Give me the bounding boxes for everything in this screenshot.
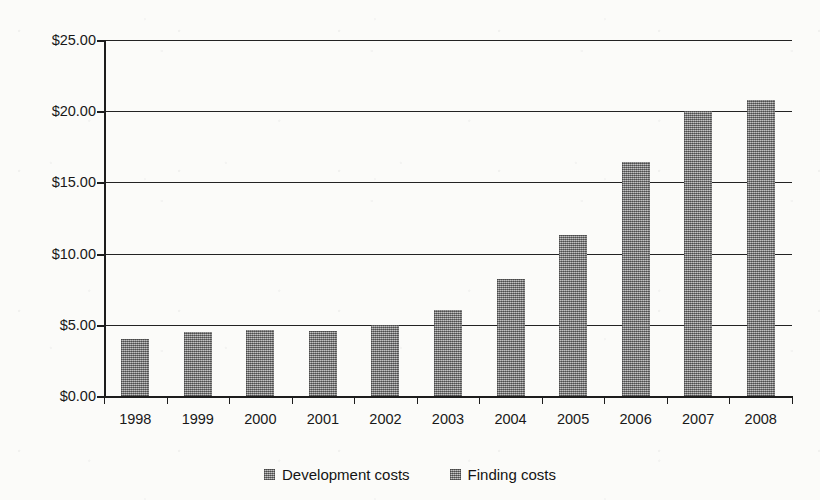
x-axis-tick-mark xyxy=(792,396,793,404)
x-axis-tick-label: 2006 xyxy=(619,411,651,427)
x-axis-tick-label: 2001 xyxy=(307,411,339,427)
bar xyxy=(121,339,149,396)
x-axis-tick-label: 2005 xyxy=(557,411,589,427)
plot-area xyxy=(104,40,792,396)
y-axis-line xyxy=(104,40,106,397)
bar xyxy=(434,310,462,396)
legend-label: Development costs xyxy=(282,466,410,483)
bar-chart: $0.00$5.00$10.00$15.00$20.00$25.00 19981… xyxy=(0,0,820,500)
legend-label: Finding costs xyxy=(468,466,556,483)
y-axis-tick-label: $20.00 xyxy=(0,103,96,119)
x-axis-tick-label: 2003 xyxy=(432,411,464,427)
bar xyxy=(747,100,775,396)
bar xyxy=(622,162,650,396)
x-axis-tick-mark xyxy=(542,396,543,404)
x-axis-tick-mark xyxy=(104,396,105,404)
x-axis-tick-label: 2000 xyxy=(244,411,276,427)
x-axis-tick-mark xyxy=(729,396,730,404)
bar xyxy=(684,111,712,397)
x-axis-tick-label: 2007 xyxy=(682,411,714,427)
y-axis-tick-label: $5.00 xyxy=(0,317,96,333)
x-axis-tick-label: 2002 xyxy=(369,411,401,427)
y-axis-tick-label: $10.00 xyxy=(0,246,96,262)
x-axis-tick-label: 2008 xyxy=(745,411,777,427)
x-axis-tick-mark xyxy=(667,396,668,404)
legend-item[interactable]: Finding costs xyxy=(450,466,556,483)
y-axis-tick-label: $0.00 xyxy=(0,388,96,404)
x-axis-tick-mark xyxy=(354,396,355,404)
bar xyxy=(497,279,525,396)
legend-swatch-icon xyxy=(450,469,461,480)
x-axis-tick-label: 1999 xyxy=(182,411,214,427)
x-axis-tick-label: 2004 xyxy=(494,411,526,427)
gridline xyxy=(104,40,792,41)
bar xyxy=(559,235,587,396)
bar xyxy=(309,331,337,397)
x-axis-tick-mark xyxy=(167,396,168,404)
x-axis-tick-label: 1998 xyxy=(119,411,151,427)
x-axis-line xyxy=(104,396,793,398)
legend-swatch-icon xyxy=(264,469,275,480)
x-axis-tick-mark xyxy=(229,396,230,404)
x-axis-tick-mark xyxy=(604,396,605,404)
bar xyxy=(246,330,274,396)
y-axis-tick-label: $15.00 xyxy=(0,174,96,190)
y-axis-tick-label: $25.00 xyxy=(0,32,96,48)
x-axis-tick-mark xyxy=(417,396,418,404)
x-axis-tick-mark xyxy=(479,396,480,404)
bar xyxy=(184,332,212,396)
legend-item[interactable]: Development costs xyxy=(264,466,410,483)
x-axis-tick-mark xyxy=(292,396,293,404)
bar xyxy=(371,325,399,396)
chart-legend: Development costsFinding costs xyxy=(0,466,820,483)
